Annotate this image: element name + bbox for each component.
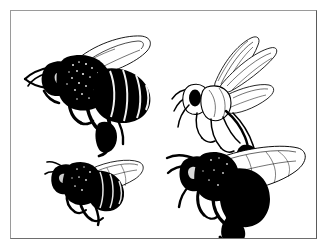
figure-top-right-eye [189,90,201,107]
figure-bottom-left-bee [45,160,143,225]
figure-top-right-thorax [201,86,231,121]
figure-top-left-abdomen [93,68,151,123]
figure-top-left-bee [25,36,150,156]
insect-figures-group [11,11,316,238]
illustration-plate: large hairy dark bee, side view facing l… [0,0,325,249]
figure-bottom-right-wasp [167,146,305,238]
plate-frame-border: large hairy dark bee, side view facing l… [10,10,317,239]
figure-top-right-upper-wings [215,37,277,93]
plate-surface: large hairy dark bee, side view facing l… [11,11,316,238]
